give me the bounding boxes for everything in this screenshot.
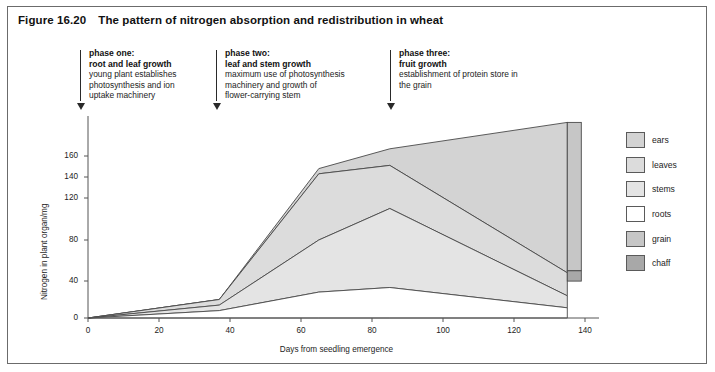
legend: earsleavesstemsrootsgrainchaff: [626, 128, 677, 276]
y-axis-title: Nitrogen in plant organ/mg: [40, 204, 49, 301]
legend-swatch-grain: [626, 231, 645, 247]
x-axis-title: Days from seedling emergence: [88, 345, 585, 354]
legend-item-ears: ears: [626, 128, 677, 153]
legend-swatch-ears: [626, 132, 645, 148]
x-tick-label-40: 40: [215, 326, 245, 335]
x-tick-label-100: 100: [428, 326, 458, 335]
x-tick-label-20: 20: [144, 326, 174, 335]
legend-swatch-leaves: [626, 157, 645, 173]
terminal-bar-grain: [567, 122, 581, 270]
x-tick-label-60: 60: [286, 326, 316, 335]
y-tick-label-160: 160: [52, 151, 78, 160]
legend-swatch-roots: [626, 206, 645, 222]
legend-item-chaff: chaff: [626, 251, 677, 276]
legend-item-roots: roots: [626, 202, 677, 227]
area-chart: [0, 0, 715, 372]
legend-label-leaves: leaves: [652, 160, 677, 170]
y-tick-label-80: 80: [52, 235, 78, 244]
figure-page: Figure 16.20 The pattern of nitrogen abs…: [0, 0, 715, 372]
x-tick-label-120: 120: [499, 326, 529, 335]
legend-label-grain: grain: [652, 234, 671, 244]
x-tick-label-80: 80: [357, 326, 387, 335]
legend-swatch-stems: [626, 181, 645, 197]
x-tick-label-0: 0: [73, 326, 103, 335]
legend-label-roots: roots: [652, 209, 671, 219]
y-tick-label-140: 140: [52, 172, 78, 181]
legend-label-stems: stems: [652, 184, 675, 194]
y-axis-title-wrap: Nitrogen in plant organ/mg: [40, 300, 137, 309]
legend-item-grain: grain: [626, 226, 677, 251]
x-tick-label-140: 140: [570, 326, 600, 335]
legend-swatch-chaff: [626, 255, 645, 271]
terminal-bar-chaff: [567, 271, 581, 281]
legend-item-leaves: leaves: [626, 153, 677, 178]
legend-label-ears: ears: [652, 135, 669, 145]
legend-item-stems: stems: [626, 177, 677, 202]
y-tick-label-0: 0: [52, 313, 78, 322]
y-tick-label-120: 120: [52, 193, 78, 202]
y-tick-label-40: 40: [52, 276, 78, 285]
legend-label-chaff: chaff: [652, 258, 670, 268]
